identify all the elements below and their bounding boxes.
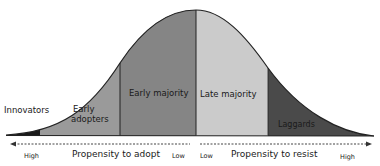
resist-start-label: Low [200, 152, 213, 160]
segment-late-majority [196, 0, 268, 140]
label-laggards: Laggards [278, 120, 315, 129]
resist-axis-label: Propensity to resist [231, 149, 318, 159]
adoption-curve-diagram: Innovators Early adopters Early majority… [0, 0, 380, 166]
right-arrowhead-icon [366, 142, 372, 147]
segment-early-majority [120, 0, 196, 140]
adopt-axis-label: Propensity to adopt [72, 149, 160, 159]
label-early-adopters-1: Early [73, 104, 94, 114]
resist-end-label: High [340, 153, 355, 161]
label-innovators: Innovators [4, 105, 50, 115]
segment-innovators [0, 0, 40, 140]
label-early-majority: Early majority [129, 88, 188, 98]
label-late-majority: Late majority [200, 89, 256, 99]
adopt-start-label: High [24, 152, 39, 160]
left-arrowhead-icon [10, 142, 16, 147]
baseline [6, 136, 374, 137]
label-early-adopters-2: adopters [71, 114, 109, 124]
adopt-end-label: Low [172, 152, 185, 160]
